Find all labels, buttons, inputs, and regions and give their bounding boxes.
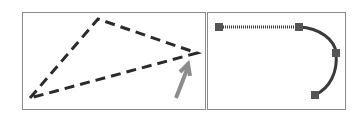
arrow-icon: [176, 64, 190, 98]
anchor-handle[interactable]: [295, 23, 303, 31]
bezier-path: [219, 27, 336, 95]
anchor-handle[interactable]: [311, 91, 319, 99]
anchor-handle[interactable]: [215, 23, 223, 31]
diagram-canvas: [0, 0, 363, 117]
dashed-triangle: [30, 19, 197, 98]
anchor-handle[interactable]: [332, 49, 340, 57]
